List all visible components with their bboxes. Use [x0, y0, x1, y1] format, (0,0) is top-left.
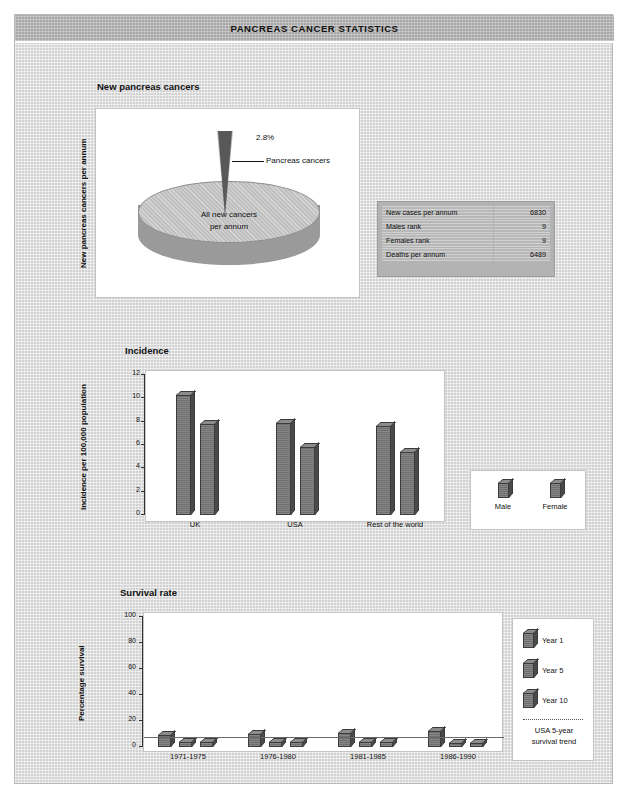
y-tick-label: 0 [120, 741, 136, 748]
pie-callout-label: Pancreas cancers [266, 156, 330, 165]
pie-chart: 2.8% Pancreas cancers All new cancers pe… [96, 109, 361, 299]
y-tick-label: 20 [120, 715, 136, 722]
bar-male-usa [276, 423, 291, 515]
pie-inner-label: All new cancers per annum [156, 209, 302, 233]
y-tick-label: 40 [120, 689, 136, 696]
bar-year-5-1976-1980 [269, 742, 282, 747]
incidence-section-title: Incidence [125, 345, 169, 356]
incidence-legend: Male Female [470, 470, 586, 530]
table-row: Deaths per annum 6489 [382, 248, 550, 261]
stat-label: New cases per annum [382, 206, 493, 219]
legend-swatch-icon [523, 693, 534, 708]
survival-chart-panel [143, 612, 503, 752]
bar-female-uk [200, 424, 215, 515]
page-title-bar: PANCREAS CANCER STATISTICS [15, 15, 614, 43]
y-tick-label: 0 [124, 509, 140, 516]
legend-swatch-icon [523, 663, 534, 678]
pie-inner-label-line2: per annum [156, 221, 302, 233]
legend-trend-line-icon [523, 719, 583, 720]
y-tick-label: 4 [124, 462, 140, 469]
legend-swatch-icon [550, 483, 561, 498]
legend-label: Year 5 [542, 666, 563, 675]
bar-year-5-1986-1990 [449, 743, 462, 747]
y-tick-label: 6 [124, 439, 140, 446]
bar-female-usa [300, 447, 315, 515]
stat-value: 9 [494, 220, 550, 233]
bar-year-10-1981-1985 [380, 742, 393, 747]
stat-label: Females rank [382, 234, 493, 247]
legend-label: Male [483, 502, 523, 511]
x-tick-label: UK [145, 520, 245, 529]
pie-slice-pancreas [218, 131, 232, 215]
x-tick-label: USA [245, 520, 345, 529]
legend-trend-note: USA 5-year survival trend [518, 725, 590, 747]
y-tick-label: 8 [124, 416, 140, 423]
legend-item-year-1: Year 1 [523, 633, 563, 648]
table-row: Females rank 9 [382, 234, 550, 247]
bar-male-rest-of-the-world [376, 426, 391, 515]
bar-year-1-1981-1985 [338, 733, 351, 747]
stat-label: Males rank [382, 220, 493, 233]
incidence-chart-panel [145, 370, 445, 522]
bar-year-10-1971-1975 [200, 742, 213, 747]
stat-value: 9 [494, 234, 550, 247]
stat-value: 6830 [494, 206, 550, 219]
stat-value: 6489 [494, 248, 550, 261]
poster-page: PANCREAS CANCER STATISTICS New pancreas … [14, 14, 613, 784]
legend-trend-note-line2: survival trend [518, 736, 590, 747]
x-tick-label: 1971-1975 [143, 752, 233, 761]
y-tick-label: 60 [120, 663, 136, 670]
table-row: Males rank 9 [382, 220, 550, 233]
legend-label: Year 10 [542, 696, 568, 705]
x-tick-label: 1976-1980 [233, 752, 323, 761]
legend-item-year-5: Year 5 [523, 663, 563, 678]
y-tick-label: 12 [124, 369, 140, 376]
legend-item-year-10: Year 10 [523, 693, 568, 708]
bar-male-uk [176, 395, 191, 515]
legend-item-female: Female [533, 483, 577, 511]
x-tick-label: 1981-1985 [323, 752, 413, 761]
pie-axis-label: New pancreas cancers per annum [79, 110, 88, 296]
statistics-table: New cases per annum 6830 Males rank 9 Fe… [377, 201, 555, 277]
y-tick-label: 2 [124, 486, 140, 493]
survival-section-title: Survival rate [120, 587, 177, 598]
legend-swatch-icon [523, 633, 534, 648]
incidence-axis-label: Incidence per 100,000 population [79, 367, 88, 527]
bar-year-1-1986-1990 [428, 731, 441, 747]
legend-label: Year 1 [542, 636, 563, 645]
statistics-table-body: New cases per annum 6830 Males rank 9 Fe… [382, 206, 550, 261]
pie-section-title: New pancreas cancers [97, 81, 199, 92]
survival-legend: Year 1 Year 5 Year 10 USA 5-year surviva… [512, 618, 594, 761]
y-tick-label: 10 [124, 392, 140, 399]
legend-label: Female [533, 502, 577, 511]
pie-slice-percent-label: 2.8% [256, 133, 274, 142]
bar-female-rest-of-the-world [400, 452, 415, 515]
survival-axis-label: Percentage survival [77, 623, 86, 743]
table-row: New cases per annum 6830 [382, 206, 550, 219]
x-tick-label: Rest of the world [345, 520, 445, 529]
x-tick-label: 1986-1990 [413, 752, 503, 761]
usa-survival-trend-line [144, 737, 504, 738]
page-title: PANCREAS CANCER STATISTICS [230, 23, 398, 34]
pie-callout-leader-line [232, 161, 264, 162]
y-tick-label: 80 [120, 637, 136, 644]
bar-year-5-1981-1985 [359, 742, 372, 747]
bar-year-10-1986-1990 [470, 743, 483, 747]
stat-label: Deaths per annum [382, 248, 493, 261]
pie-chart-panel: 2.8% Pancreas cancers All new cancers pe… [95, 108, 360, 298]
legend-trend-note-line1: USA 5-year [518, 725, 590, 736]
legend-item-male: Male [483, 483, 523, 511]
pie-inner-label-line1: All new cancers [156, 209, 302, 221]
bar-year-5-1971-1975 [179, 742, 192, 747]
bar-year-10-1976-1980 [290, 742, 303, 747]
legend-swatch-icon [498, 483, 509, 498]
y-tick-label: 100 [120, 611, 136, 618]
